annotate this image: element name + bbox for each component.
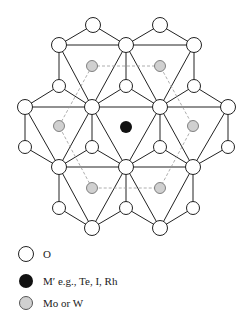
structure-diagram (0, 0, 247, 245)
stippled-circle-icon (17, 294, 35, 312)
legend-addenda: Mo or W (17, 294, 83, 312)
legend-label: M′ e.g., Te, I, Rh (43, 275, 117, 287)
filled-circle-icon (17, 272, 35, 290)
legend-hetero: M′ e.g., Te, I, Rh (17, 272, 117, 290)
legend-label: Mo or W (43, 297, 83, 309)
open-circle-icon (17, 245, 35, 263)
legend-oxygen: O (17, 245, 51, 263)
hetero-atom (120, 121, 132, 133)
legend-label: O (43, 248, 51, 260)
